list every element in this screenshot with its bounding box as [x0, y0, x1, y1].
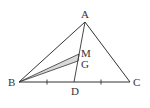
segment-ab: [19, 22, 85, 82]
diagram-svg: A B C D M G: [0, 0, 150, 108]
label-b: B: [8, 76, 15, 88]
label-g: G: [81, 58, 89, 70]
label-a: A: [81, 8, 89, 20]
segment-ac: [85, 22, 130, 82]
triangle-diagram: A B C D M G: [0, 0, 150, 108]
label-c: C: [133, 76, 140, 88]
label-d: D: [71, 85, 79, 97]
shaded-triangle-bmg: [19, 54, 79, 82]
